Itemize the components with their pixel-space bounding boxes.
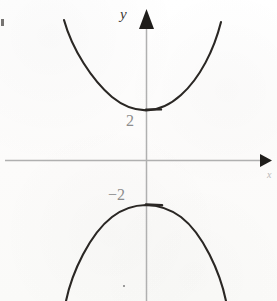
x-axis-label: x <box>267 170 271 180</box>
tick-label-positive-two: 2 <box>126 113 134 129</box>
upper-hyperbola-branch <box>64 20 221 110</box>
scan-artifact-left-edge <box>1 19 4 26</box>
plot-canvas <box>0 0 277 301</box>
up-arrow-icon <box>139 9 154 29</box>
lower-vertex-mark <box>146 205 162 206</box>
right-arrow-icon <box>260 154 272 167</box>
y-axis-label: y <box>120 7 127 22</box>
tick-label-negative-two: −2 <box>108 187 125 203</box>
hyperbola-figure: y x 2 −2 <box>0 0 277 301</box>
scan-artifact-bottom <box>123 285 125 287</box>
